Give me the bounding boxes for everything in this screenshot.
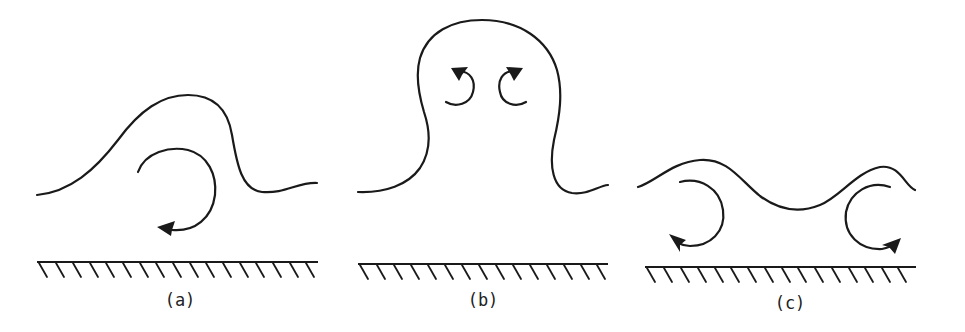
panel-label-a: (a) xyxy=(165,290,196,310)
interface-curve-b xyxy=(358,20,608,193)
arrowhead-c-right-icon xyxy=(882,238,901,254)
panel-label-c: (c) xyxy=(775,293,806,313)
vortex-c-left xyxy=(678,181,723,246)
panel-c: (c) xyxy=(638,160,916,313)
arrowhead-a-icon xyxy=(157,221,175,236)
ground-hatching-c xyxy=(647,268,906,282)
panel-b: (b) xyxy=(358,20,608,310)
vortex-diagram: (a) (b) xyxy=(0,0,965,332)
arrowhead-b-right-icon xyxy=(506,67,523,81)
panel-label-b: (b) xyxy=(468,290,499,310)
ground-hatching-b xyxy=(360,265,605,279)
arrowhead-c-left-icon xyxy=(669,234,686,252)
vortex-a xyxy=(138,149,215,230)
panel-a: (a) xyxy=(37,95,318,310)
interface-curve-a xyxy=(37,95,317,195)
ground-hatching-a xyxy=(39,263,314,277)
vortex-c-right xyxy=(846,185,895,249)
arrowhead-b-left-icon xyxy=(451,67,468,81)
